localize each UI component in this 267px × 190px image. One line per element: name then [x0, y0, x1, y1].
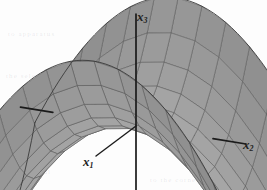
axis-label-x2: x2 — [243, 138, 254, 153]
axis-label-x2-subscript: 2 — [250, 144, 254, 153]
axis-label-x3: x3 — [137, 10, 148, 25]
saddle-surface-mesh — [0, 0, 267, 190]
surface-plot-figure: to apparatus and referring the selection… — [0, 0, 267, 190]
axis-label-x3-subscript: 3 — [144, 16, 148, 25]
plot-canvas — [0, 0, 267, 190]
axis-label-x1: x1 — [83, 155, 94, 170]
axis-label-x1-subscript: 1 — [90, 161, 94, 170]
